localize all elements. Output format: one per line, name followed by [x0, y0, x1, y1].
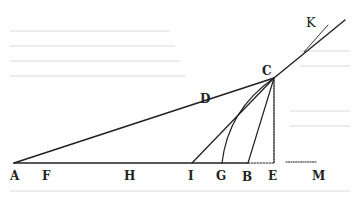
label-A: A [9, 169, 20, 183]
curve-CG [222, 78, 274, 163]
point-labels: A F H I G B E M C D K [9, 15, 325, 184]
label-E: E [268, 169, 277, 183]
label-C: C [262, 64, 272, 78]
label-F: F [42, 169, 51, 183]
label-H: H [124, 169, 135, 183]
label-G: G [216, 169, 226, 183]
label-D: D [200, 92, 210, 106]
label-B: B [242, 170, 252, 184]
geometric-figure: A F H I G B E M C D K [0, 0, 356, 197]
label-M: M [312, 169, 325, 183]
label-I: I [188, 169, 194, 183]
illegible-bleed-through-texture [10, 30, 350, 192]
label-K: K [306, 15, 316, 30]
figure-lines [14, 20, 345, 163]
